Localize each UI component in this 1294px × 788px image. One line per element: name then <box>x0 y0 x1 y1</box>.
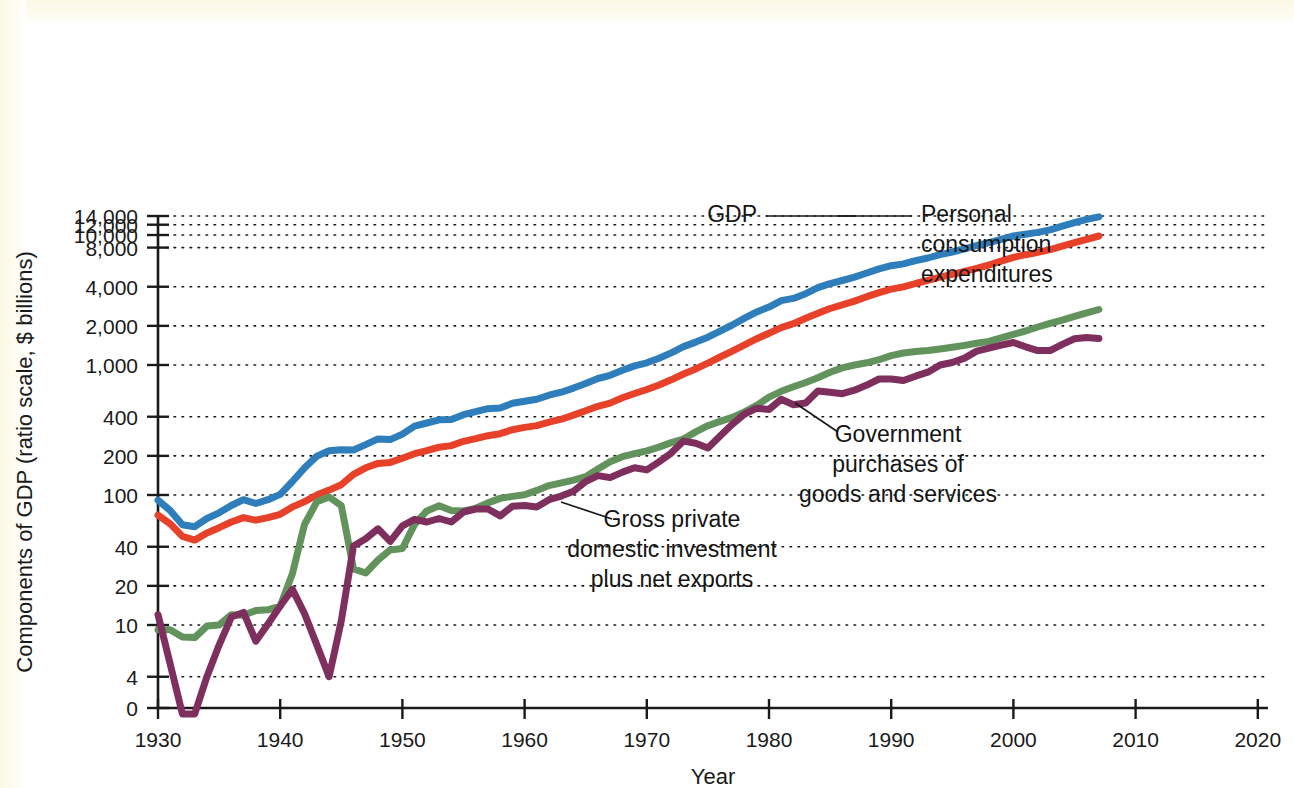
y-tick-label-100: 100 <box>103 484 138 507</box>
y-tick-label-8000: 8,000 <box>85 237 138 260</box>
x-tick-label-1940: 1940 <box>257 728 304 751</box>
annotation-line: plus net exports <box>591 566 753 592</box>
x-axis-title: Year <box>691 764 735 788</box>
y-tick-label-4: 4 <box>126 666 138 689</box>
annotation-line: expenditures <box>921 261 1053 287</box>
annotation-line: Government <box>835 421 962 447</box>
annotation-line: Gross private <box>604 506 741 532</box>
x-tick-label-2020: 2020 <box>1234 728 1281 751</box>
y-tick-label-20: 20 <box>115 575 138 598</box>
chart-svg: 14,00012,00010,0008,0004,0002,0001,00040… <box>0 0 1294 788</box>
y-tick-label-4000: 4,000 <box>85 276 138 299</box>
x-tick-label-1980: 1980 <box>746 728 793 751</box>
x-tick-label-2000: 2000 <box>990 728 1037 751</box>
y-tick-label-200: 200 <box>103 445 138 468</box>
gdp-components-chart: 14,00012,00010,0008,0004,0002,0001,00040… <box>0 0 1294 788</box>
annotation-gross-private-investment: Gross privatedomestic investmentplus net… <box>567 506 777 592</box>
annotation-line: goods and services <box>799 481 997 507</box>
annotation-line: Personal <box>921 201 1012 227</box>
annotation-gdp: GDP <box>707 201 757 227</box>
y-tick-label-2000: 2,000 <box>85 315 138 338</box>
x-tick-label-1960: 1960 <box>501 728 548 751</box>
y-tick-label-40: 40 <box>115 536 138 559</box>
annotation-personal-consumption: Personalconsumptionexpenditures <box>921 201 1053 287</box>
annotation-line: consumption <box>921 231 1051 257</box>
annotation-line: domestic investment <box>567 536 777 562</box>
annotation-line: GDP <box>707 201 757 227</box>
x-tick-label-1950: 1950 <box>379 728 426 751</box>
y-tick-label-400: 400 <box>103 406 138 429</box>
y-tick-label-0: 0 <box>126 697 138 720</box>
y-axis-title: Components of GDP (ratio scale, $ billio… <box>12 251 37 672</box>
x-tick-label-2010: 2010 <box>1112 728 1159 751</box>
y-tick-label-1000: 1,000 <box>85 354 138 377</box>
x-tick-label-1930: 1930 <box>135 728 182 751</box>
x-tick-label-1970: 1970 <box>623 728 670 751</box>
chart-axes <box>158 216 1268 708</box>
annotation-line: purchases of <box>832 451 964 477</box>
y-tick-label-10: 10 <box>115 614 138 637</box>
annotation-government-purchases: Governmentpurchases ofgoods and services <box>799 421 997 507</box>
x-tick-label-1990: 1990 <box>868 728 915 751</box>
